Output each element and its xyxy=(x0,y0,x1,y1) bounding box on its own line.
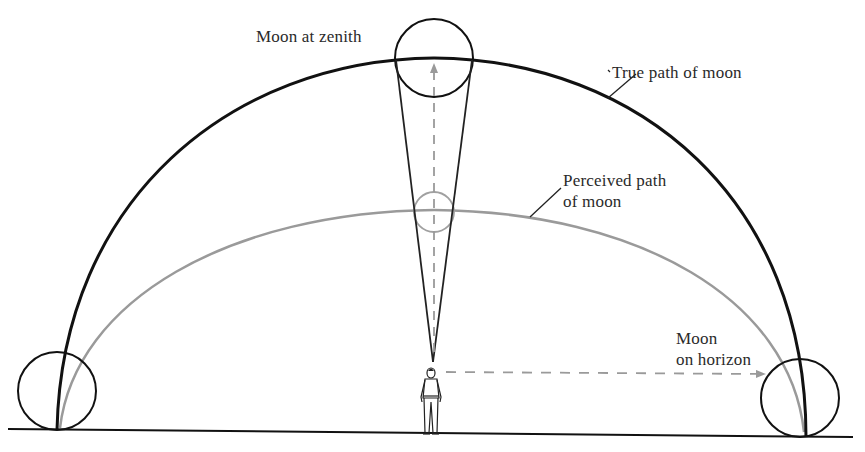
perceived-path-arc xyxy=(60,210,804,432)
label-moon-on-horizon-line1: Moon xyxy=(676,328,751,349)
label-moon-on-horizon-line2: on horizon xyxy=(676,349,751,370)
dashed-arrow-horizon xyxy=(446,372,765,374)
label-true-path: True path of moon xyxy=(612,62,742,83)
perceived-path-leader xyxy=(530,188,561,217)
true-path-leader-line xyxy=(608,70,610,72)
ground-line xyxy=(8,429,853,437)
perceived-moon-zenith-circle xyxy=(414,192,454,232)
label-moon-on-horizon: Moon on horizon xyxy=(676,328,751,370)
label-moon-at-zenith: Moon at zenith xyxy=(256,26,362,47)
label-perceived-path-line2: of moon xyxy=(563,191,666,212)
label-perceived-path-line1: Perceived path xyxy=(563,170,666,191)
observer-figure xyxy=(421,368,441,434)
label-perceived-path: Perceived path of moon xyxy=(563,170,666,212)
